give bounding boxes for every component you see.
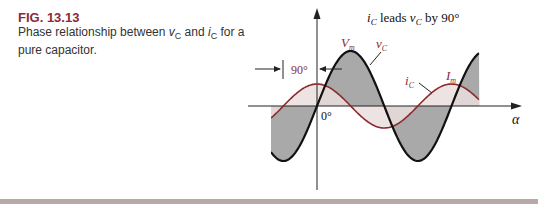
diagram-title: iC leads vC by 90°: [367, 10, 459, 27]
vc-label: vC: [376, 36, 388, 53]
bottom-divider: [0, 199, 538, 204]
vc-leader-line: [370, 52, 381, 65]
im-label: Im: [445, 68, 456, 85]
y-axis-arrow-icon: [314, 8, 321, 19]
phase-diagram: iC leads vC by 90° 90° 0° α Vm vC iC Im: [0, 0, 538, 204]
phase-arrow-left-icon: [319, 66, 326, 72]
vm-label: Vm: [341, 35, 355, 52]
x-axis-arrow-icon: [511, 103, 522, 110]
phase-label: 90°: [291, 63, 308, 77]
ic-label: iC: [405, 73, 415, 90]
origin-label: 0°: [321, 109, 332, 123]
x-axis-label: α: [512, 112, 520, 127]
ic-leader-line: [419, 83, 432, 93]
phase-arrow-right-icon: [274, 66, 281, 72]
